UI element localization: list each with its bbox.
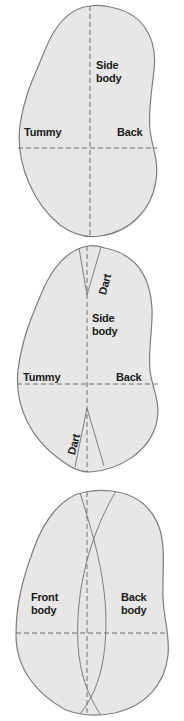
- kidney-outline-front-back: [0, 480, 184, 721]
- label-body: body: [31, 604, 58, 617]
- label-front: Front: [31, 591, 58, 604]
- back-label: Back: [116, 371, 142, 384]
- pattern-panel-side-body: Side body Tummy Back: [0, 0, 184, 240]
- label-body: body: [96, 72, 121, 85]
- front-body-label: Front body: [31, 591, 58, 617]
- label-side: Side: [92, 312, 117, 325]
- label-body: body: [92, 325, 117, 338]
- label-body: body: [121, 604, 147, 617]
- kidney-outline-shape: [0, 0, 184, 240]
- label-side: Side: [96, 59, 121, 72]
- tummy-label: Tummy: [24, 126, 61, 139]
- back-body-label: Back body: [121, 591, 147, 617]
- tummy-label: Tummy: [23, 371, 60, 384]
- pattern-panel-front-back-body: Front body Back body: [0, 480, 184, 721]
- label-back: Back: [121, 591, 147, 604]
- side-body-label: Side body: [92, 312, 117, 338]
- back-label: Back: [117, 126, 143, 139]
- side-body-label: Side body: [96, 59, 121, 85]
- kidney-outline-with-darts: [0, 240, 184, 480]
- pattern-panel-darts: Dart Side body Tummy Back Dart: [0, 240, 184, 480]
